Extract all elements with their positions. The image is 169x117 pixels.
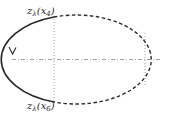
ellipse-figure [0, 0, 169, 117]
ellipse-diagram: zλ(x4) zλ(x6) [0, 0, 169, 117]
arrow-down-icon [9, 47, 16, 54]
label-z-lambda-x6: zλ(x6) [27, 101, 55, 111]
label-z-lambda-x4: zλ(x4) [27, 6, 55, 16]
